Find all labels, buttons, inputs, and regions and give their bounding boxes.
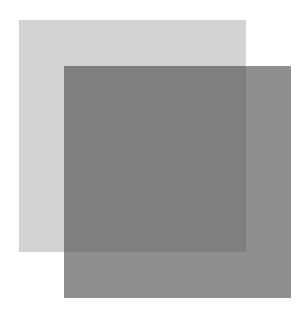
dark-gray-translucent-square [64, 66, 291, 298]
